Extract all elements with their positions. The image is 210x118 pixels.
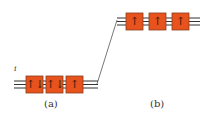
connector-line (97, 20, 117, 84)
spin-glyph-a3: ↑ (66, 77, 83, 92)
spin-glyph-a1: ↑↓ (26, 77, 43, 92)
site-index-label: i (14, 64, 17, 73)
panel-b-label: (b) (150, 98, 164, 109)
spin-glyph-b1: ↑ (126, 14, 143, 29)
spin-glyph-b2: ↑ (149, 14, 166, 29)
spin-glyph-b3: ↑ (172, 14, 189, 29)
spin-glyph-a2: ↑↓ (46, 77, 63, 92)
panel-a-label: (a) (44, 98, 58, 109)
